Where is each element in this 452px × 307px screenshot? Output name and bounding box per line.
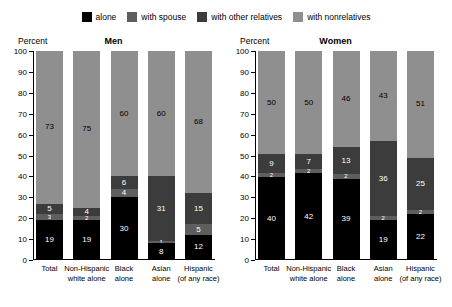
bar-value-label: 6 [122,179,126,187]
bar-segment-women-2-1: 13 [333,147,360,174]
y-tick-women-40 [251,176,255,177]
y-tick-label-women-40: 40 [231,172,249,181]
bar-value-label: 19 [45,236,54,244]
y-tick-label-men-80: 80 [9,88,27,97]
bar-segment-men-3-3: 8 [148,243,175,260]
y-tick-label-men-60: 60 [9,130,27,139]
bar-value-label: 73 [45,123,54,131]
bar-segment-men-4-1: 15 [185,193,212,224]
chart-legend: alonewith spousewith other relativeswith… [0,12,452,22]
bar-segment-women-4-3: 22 [407,214,434,260]
panel-title-women: Women [228,36,443,46]
y-tick-label-men-10: 10 [9,235,27,244]
bar-men-0: 735319 [36,51,63,260]
y-tick-men-100 [29,51,33,52]
bar-value-label: 8 [159,248,163,256]
y-tick-women-10 [251,239,255,240]
bar-segment-men-4-0: 68 [185,51,212,193]
bar-segment-women-0-0: 50 [258,51,285,154]
legend-item-with_spouse: with spouse [127,12,186,22]
bar-value-label: 39 [342,215,351,223]
y-tick-women-0 [251,260,255,261]
bar-group-women: 509240507242461323943362195125222 [258,51,434,260]
bar-women-3: 4336219 [370,51,397,260]
y-tick-label-women-30: 30 [231,193,249,202]
y-tick-label-men-100: 100 [9,47,27,56]
bar-segment-women-0-1: 9 [258,154,285,173]
legend-label-with_nonrelatives: with nonrelatives [307,12,370,22]
y-tick-women-70 [251,114,255,115]
bar-value-label: 42 [304,213,313,221]
bar-segment-women-0-3: 40 [258,177,285,260]
y-tick-men-30 [29,197,33,198]
x-category-label-men-4: Hispanic(of any race) [171,264,227,283]
chart-panel-women: Percent Women 1009080706050403020100 509… [228,36,443,304]
bar-segment-women-1-1: 7 [295,154,322,168]
legend-swatch-with_nonrelatives [293,12,303,22]
y-tick-women-30 [251,197,255,198]
bar-segment-men-2-1: 6 [111,176,138,189]
bar-value-label: 5 [196,226,200,234]
bar-segment-women-4-1: 25 [407,158,434,210]
x-category-label-women-4: Hispanic(of any race) [393,264,449,283]
x-category-line: Hispanic [171,264,227,274]
bar-segment-women-3-3: 19 [370,220,397,260]
y-tick-label-women-10: 10 [231,235,249,244]
y-tick-label-women-70: 70 [231,109,249,118]
bar-value-label: 13 [342,157,351,165]
bar-women-2: 4613239 [333,51,360,260]
legend-item-with_other_relatives: with other relatives [197,12,282,22]
bar-segment-men-1-0: 75 [73,51,100,208]
bar-value-label: 50 [304,99,313,107]
bar-group-men: 7353197542196064306031186815512 [36,51,212,260]
bar-value-label: 51 [416,100,425,108]
bar-value-label: 4 [122,189,126,197]
bar-segment-men-2-2: 4 [111,189,138,197]
y-tick-label-men-20: 20 [9,214,27,223]
bar-segment-women-3-1: 36 [370,141,397,216]
bar-segment-women-4-0: 51 [407,51,434,158]
bar-segment-women-1-3: 42 [295,173,322,260]
y-tick-women-20 [251,218,255,219]
y-tick-label-women-80: 80 [231,88,249,97]
plot-area-women: 1009080706050403020100 50924050724246132… [255,51,437,260]
y-tick-women-100 [251,51,255,52]
y-tick-label-men-50: 50 [9,151,27,160]
legend-item-alone: alone [82,12,117,22]
bar-segment-men-3-1: 31 [148,176,175,241]
y-tick-label-men-30: 30 [9,193,27,202]
y-tick-men-10 [29,239,33,240]
y-tick-label-women-60: 60 [231,130,249,139]
y-tick-women-60 [251,135,255,136]
legend-label-alone: alone [96,12,117,22]
bar-value-label: 3 [48,214,51,220]
bar-value-label: 19 [379,236,388,244]
bar-segment-women-3-0: 43 [370,51,397,141]
bar-segment-men-2-3: 30 [111,197,138,260]
y-tick-label-women-20: 20 [231,214,249,223]
bar-segment-women-2-3: 39 [333,179,360,261]
x-axis-categories-women: TotalNon-Hispanicwhite aloneBlackaloneAs… [255,264,437,300]
bar-value-label: 9 [269,160,273,168]
bar-segment-men-0-3: 19 [36,220,63,260]
x-category-line: (of any race) [171,274,227,284]
bar-value-label: 40 [267,215,276,223]
bar-value-label: 12 [194,243,203,251]
bar-value-label: 30 [120,225,129,233]
y-tick-men-50 [29,156,33,157]
y-tick-women-50 [251,156,255,157]
y-tick-label-men-90: 90 [9,67,27,76]
legend-swatch-with_other_relatives [197,12,207,22]
bar-value-label: 15 [194,205,203,213]
y-axis-line-men [33,51,34,260]
bar-value-label: 31 [157,205,166,213]
y-tick-men-20 [29,218,33,219]
bar-segment-men-1-3: 19 [73,220,100,260]
bar-value-label: 19 [82,236,91,244]
bar-value-label: 43 [379,92,388,100]
y-tick-men-60 [29,135,33,136]
legend-swatch-with_spouse [127,12,137,22]
bar-value-label: 75 [82,125,91,133]
legend-item-with_nonrelatives: with nonrelatives [293,12,370,22]
x-axis-categories-men: TotalNon-Hispanicwhite aloneBlackaloneAs… [33,264,215,300]
